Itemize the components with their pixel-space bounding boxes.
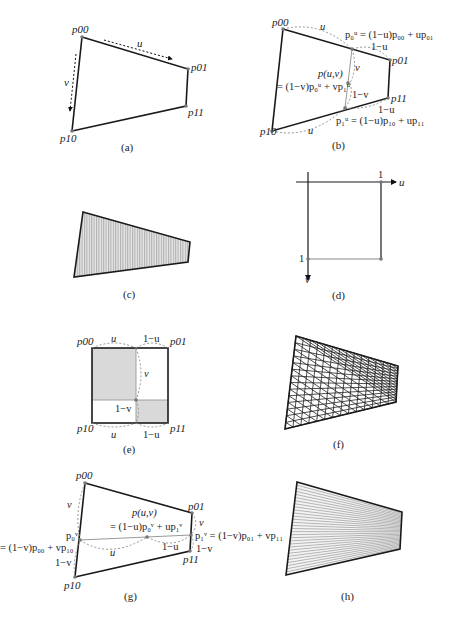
label-p00: p00 (75, 469, 93, 481)
label-u-bottom: u (308, 125, 313, 136)
caption-e: (e) (123, 443, 136, 456)
label-p11: p11 (187, 106, 204, 118)
label-p10: p10 (259, 125, 277, 137)
tick-1-u: 1 (378, 169, 383, 180)
panel-g: p00 p01 p11 p10 v 1−v v 1−v u 1−u p(u,v)… (0, 469, 283, 603)
panel-h: (h) (286, 482, 402, 603)
panel-d: 1 u 1 v (d) (296, 169, 405, 302)
panel-a: p00 p01 p11 p10 u v (a) (59, 23, 208, 154)
label-p11: p11 (169, 422, 186, 434)
panel-f: (f) (285, 336, 398, 451)
label-u-bottom: u (111, 429, 116, 440)
caption-c: (c) (123, 288, 136, 301)
label-p01: p01 (187, 500, 205, 512)
label-1-u-bottom: 1−u (378, 104, 395, 115)
label-p10: p10 (59, 132, 77, 144)
label-p10: p10 (76, 422, 94, 434)
eq-puv: = (1−v)p₀ᵘ + vp₁ᵘ (277, 81, 351, 93)
panel-b: p00 p01 p11 p10 u 1−u p₀ᵘ = (1−u)p₀₀ + u… (259, 16, 434, 152)
eq-p0v: = (1−v)p₀₀ + vp₁₀ (0, 542, 74, 554)
caption-f: (f) (333, 438, 344, 451)
label-v-left: v (67, 499, 72, 510)
label-p00: p00 (71, 23, 89, 35)
eq-puv: = (1−u)p₀ᵛ + up₁ᵛ (110, 521, 183, 533)
label-p11: p11 (182, 553, 199, 565)
label-p01: p01 (190, 61, 208, 73)
label-v: v (64, 76, 69, 88)
eq-p1v: p₁ᵛ = (1−v)p₀₁ + vp₁₁ (195, 530, 283, 542)
label-1-u: 1−u (162, 541, 179, 552)
label-puv: p(u,v) (131, 507, 157, 519)
label-u-top: u (111, 333, 116, 344)
label-p00: p00 (76, 335, 94, 347)
label-1-v-right: 1−v (196, 543, 213, 554)
label-p00: p00 (271, 16, 289, 28)
label-v-right: v (199, 517, 204, 528)
label-v: v (355, 62, 360, 73)
caption-d: (d) (332, 289, 345, 302)
label-1-v: 1−v (352, 89, 369, 100)
label-u: u (137, 37, 143, 49)
label-p01: p01 (169, 335, 187, 347)
label-1-u-bottom: 1−u (143, 429, 160, 440)
label-u: u (110, 547, 115, 558)
label-p0v: p₀ᵛ (66, 530, 79, 541)
figure-canvas: p00 p01 p11 p10 u v (a) p00 p01 p11 p10 … (0, 0, 449, 618)
label-puv: p(u,v) (317, 68, 343, 80)
quad-outline (72, 37, 188, 131)
caption-h: (h) (341, 590, 354, 603)
label-1-v: 1−v (115, 403, 132, 414)
caption-g: (g) (124, 590, 137, 603)
tick-1-v: 1 (299, 253, 304, 264)
label-p11: p11 (390, 92, 407, 104)
eq-p0u: p₀ᵘ = (1−u)p₀₀ + up₀₁ (345, 29, 434, 41)
axis-label-u: u (399, 176, 405, 188)
axis-label-v: v (305, 273, 310, 285)
striped-quad (74, 212, 190, 277)
eq-p1u: p₁ᵘ = (1−u)p₁₀ + up₁₁ (336, 115, 425, 127)
label-1-v-left: 1−v (55, 557, 72, 568)
label-u-top: u (320, 21, 325, 32)
panel-e: p00 p01 p10 p11 u 1−u v 1−v u 1−u (e) (76, 333, 187, 456)
caption-a: (a) (121, 141, 134, 154)
label-p01: p01 (391, 54, 409, 66)
label-1-u-top: 1−u (143, 333, 160, 344)
label-v: v (144, 368, 149, 379)
label-1-u-top: 1−u (371, 41, 388, 52)
panel-c: (c) (74, 212, 190, 301)
label-p10: p10 (63, 579, 81, 591)
caption-b: (b) (332, 139, 345, 152)
iso-v-line (80, 535, 191, 540)
iso-u-line (345, 49, 352, 108)
